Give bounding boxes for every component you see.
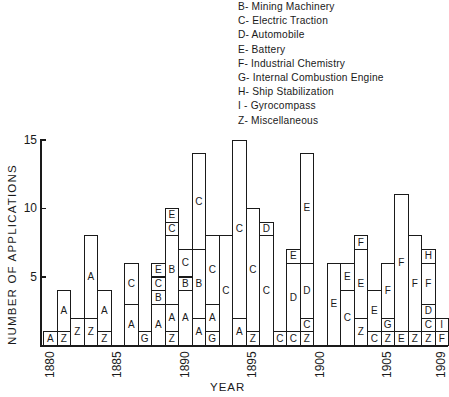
bar-segment-1907-f: F [408,235,423,332]
bar-segment-1908-c: C [421,318,436,333]
bar-segment-1894-a: A [232,318,247,346]
bar-segment-1889-b: B [165,235,180,305]
x-tick-label: 1895 [245,351,259,378]
bar-segment-1908-f: F [421,263,436,305]
x-axis-label: YEAR [210,381,245,393]
y-tick [40,139,46,141]
x-tick-label: 1890 [178,351,192,378]
bar-segment-1892-g: G [205,331,220,346]
bar-segment-1882-z: Z [70,318,85,346]
x-tick-label: 1880 [43,351,57,378]
bar-segment-1905-f: F [381,263,396,319]
bar-segment-1908-d: D [421,304,436,319]
bar-segment-1892-a: A [205,304,220,332]
bar-segment-1891-b: B [192,249,207,319]
bar-segment-1890-b: B [178,277,193,292]
bar-segment-1896-c: C [259,235,274,346]
bar-segment-1903-z: Z [354,318,369,346]
bar-segment-1905-g: G [381,318,396,333]
bar-segment-1899-d: D [300,263,315,319]
bar-segment-1883-a: A [84,235,99,318]
bar-segment-1896-d: D [259,222,274,237]
bar-segment-1898-c: C [286,331,301,346]
y-tick-label: 10 [15,201,37,215]
bar-segment-1881-a: A [57,290,72,332]
bar-segment-1889-c: C [165,222,180,237]
bar-segment-1891-c: C [192,153,207,250]
bar-segment-1904-e: E [367,290,382,332]
bar-segment-1909-i: I [435,318,449,333]
bar-segment-1884-a: A [97,290,112,332]
bar-segment-1897-c: C [273,331,288,346]
bar-segment-1906-e: E [394,331,409,346]
bar-segment-1888-c: C [151,277,166,292]
bar-segment-1899-z: Z [300,331,315,346]
bar-segment-1899-c: C [300,318,315,333]
bar-segment-1887-g: G [138,331,153,346]
bar-segment-1903-e: E [354,249,369,319]
x-tick-label: 1909 [434,351,448,378]
bar-segment-1888-e: E [151,263,166,278]
bar-segment-1886-c: C [124,263,139,305]
bar-segment-1908-h: H [421,249,436,264]
x-tick-label: 1905 [380,351,394,378]
y-tick-label: 15 [15,133,37,147]
y-tick [40,276,46,278]
x-tick-label: 1900 [313,351,327,378]
bar-segment-1888-a: A [151,304,166,346]
bar-segment-1891-a: A [192,318,207,346]
y-tick-label: 5 [15,270,37,284]
bar-segment-1895-c: C [246,208,261,332]
bar-segment-1895-z: Z [246,331,261,346]
bar-segment-1886-a: A [124,304,139,346]
bar-segment-1902-c: C [340,290,355,346]
bar-segment-1909-f: F [435,331,449,346]
bar-segment-1889-z: Z [165,331,180,346]
x-tick-label: 1885 [110,351,124,378]
bar-segment-1884-z: Z [97,331,112,346]
bar-segment-1898-d: D [286,263,301,333]
bar-segment-1907-z: Z [408,331,423,346]
bar-segment-1903-f: F [354,235,369,250]
bar-segment-1901-e: E [327,263,342,346]
bar-segment-1880-a: A [43,331,58,346]
bar-segment-1892-c: C [205,235,220,305]
bar-segment-1889-e: E [165,208,180,223]
bar-segment-1890-c: C [178,249,193,277]
bar-segment-1893-c: C [219,235,234,346]
y-axis-line [40,139,42,345]
bar-segment-1908-z: Z [421,331,436,346]
bar-segment-1905-z: Z [381,331,396,346]
bar-segment-1883-z: Z [84,318,99,346]
bar-segment-1906-f: F [394,194,409,332]
bar-segment-1890-a: A [178,290,193,346]
bar-segment-1888-b: B [151,290,166,305]
bar-segment-1894-c: C [232,140,247,319]
bar-segment-1902-e: E [340,263,355,291]
bar-segment-1881-z: Z [57,331,72,346]
y-tick [40,208,46,210]
bar-segment-1898-e: E [286,249,301,264]
y-axis-label: NUMBER OF APPLICATIONS [6,164,18,345]
bar-segment-1904-c: C [367,331,382,346]
bar-segment-1899-e: E [300,153,315,264]
bar-segment-1889-a: A [165,304,180,332]
